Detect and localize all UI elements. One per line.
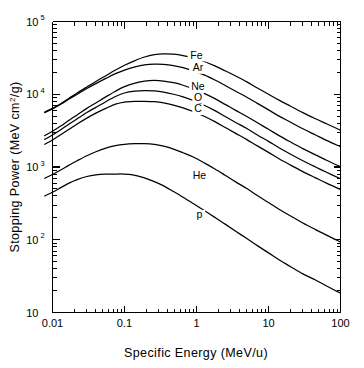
- y-tick-label-10: 10: [26, 307, 38, 319]
- y-tick-exponent: 3: [41, 159, 45, 168]
- y-tick-label-1000: 103: [26, 159, 44, 174]
- y-axis-title-suffix: /g): [8, 81, 22, 97]
- y-tick-exponent: 4: [41, 86, 45, 95]
- stopping-power-figure: FeArNeOCHep 0.010.1110100 10510410310210…: [0, 0, 364, 368]
- y-tick-mantissa: 10: [26, 234, 38, 246]
- y-axis-title: Stopping Power (MeV cm2/g): [8, 81, 22, 252]
- x-tick-label-0.01: 0.01: [42, 317, 63, 329]
- x-tick-label-1: 1: [193, 317, 199, 329]
- curve-He: [45, 144, 341, 243]
- y-axis-title-prefix: Stopping Power (MeV cm: [8, 102, 22, 253]
- chart-canvas: FeArNeOCHep 0.010.1110100 10510410310210…: [0, 0, 364, 368]
- x-tick-labels: 0.010.1110100: [42, 317, 350, 329]
- y-tick-label-100: 102: [26, 231, 44, 246]
- series-label-C: C: [194, 102, 202, 114]
- series-label-Ar: Ar: [193, 61, 204, 73]
- x-tick-label-0.1: 0.1: [117, 317, 132, 329]
- series-label-Fe: Fe: [190, 49, 202, 61]
- y-tick-exponent: 5: [41, 13, 45, 22]
- series-label-He: He: [193, 169, 207, 181]
- curve-p: [45, 174, 341, 293]
- y-tick-exponent: 2: [41, 231, 45, 240]
- series-label-p: p: [197, 208, 203, 220]
- y-tick-mantissa: 10: [26, 161, 38, 173]
- y-tick-labels: 10510410310210: [26, 13, 44, 319]
- y-tick-mantissa: 10: [26, 307, 38, 319]
- y-tick-mantissa: 10: [26, 16, 38, 28]
- y-tick-label-100000: 105: [26, 13, 44, 28]
- curve-O: [45, 91, 341, 179]
- x-tick-label-100: 100: [331, 317, 349, 329]
- x-tick-label-10: 10: [262, 317, 274, 329]
- series-labels: FeArNeOCHep: [188, 49, 209, 221]
- y-tick-mantissa: 10: [26, 88, 38, 100]
- series-label-O: O: [194, 91, 202, 103]
- x-axis-title: Specific Energy (MeV/u): [124, 346, 268, 360]
- y-tick-label-10000: 104: [26, 86, 44, 101]
